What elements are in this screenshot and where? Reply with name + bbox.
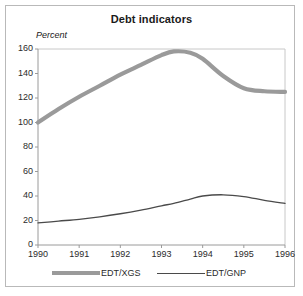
legend-label-1: EDT/GNP xyxy=(206,268,246,278)
y-tick-label: 20 xyxy=(3,215,33,225)
series-group xyxy=(38,51,285,223)
x-tick-label: 1995 xyxy=(224,249,264,259)
x-tick-label: 1996 xyxy=(265,249,303,259)
x-tick-label: 1990 xyxy=(18,249,58,259)
axes-group xyxy=(35,49,285,248)
legend-swatch-thick-icon xyxy=(52,271,100,275)
y-tick-label: 40 xyxy=(3,190,33,200)
y-tick-label: 120 xyxy=(3,92,33,102)
y-tick-label: 80 xyxy=(3,141,33,151)
legend-item-edt-gnp: EDT/GNP xyxy=(157,265,246,281)
legend-swatch-thin-icon xyxy=(157,273,205,274)
y-tick-label: 60 xyxy=(3,166,33,176)
y-tick-label: 140 xyxy=(3,68,33,78)
series-line-edt-xgs xyxy=(38,51,285,122)
series-line-edt-gnp xyxy=(38,195,285,223)
y-tick-label: 100 xyxy=(3,117,33,127)
chart-figure: Debt indicators Percent 0204060801001201… xyxy=(0,0,303,296)
x-tick-label: 1992 xyxy=(100,249,140,259)
x-tick-label: 1991 xyxy=(59,249,99,259)
chart-legend: EDT/XGS EDT/GNP xyxy=(5,265,295,283)
legend-item-edt-xgs: EDT/XGS xyxy=(52,265,141,281)
legend-label-0: EDT/XGS xyxy=(101,268,141,278)
y-tick-label: 0 xyxy=(3,239,33,249)
y-tick-label: 160 xyxy=(3,43,33,53)
x-tick-label: 1994 xyxy=(183,249,223,259)
x-tick-label: 1993 xyxy=(142,249,182,259)
